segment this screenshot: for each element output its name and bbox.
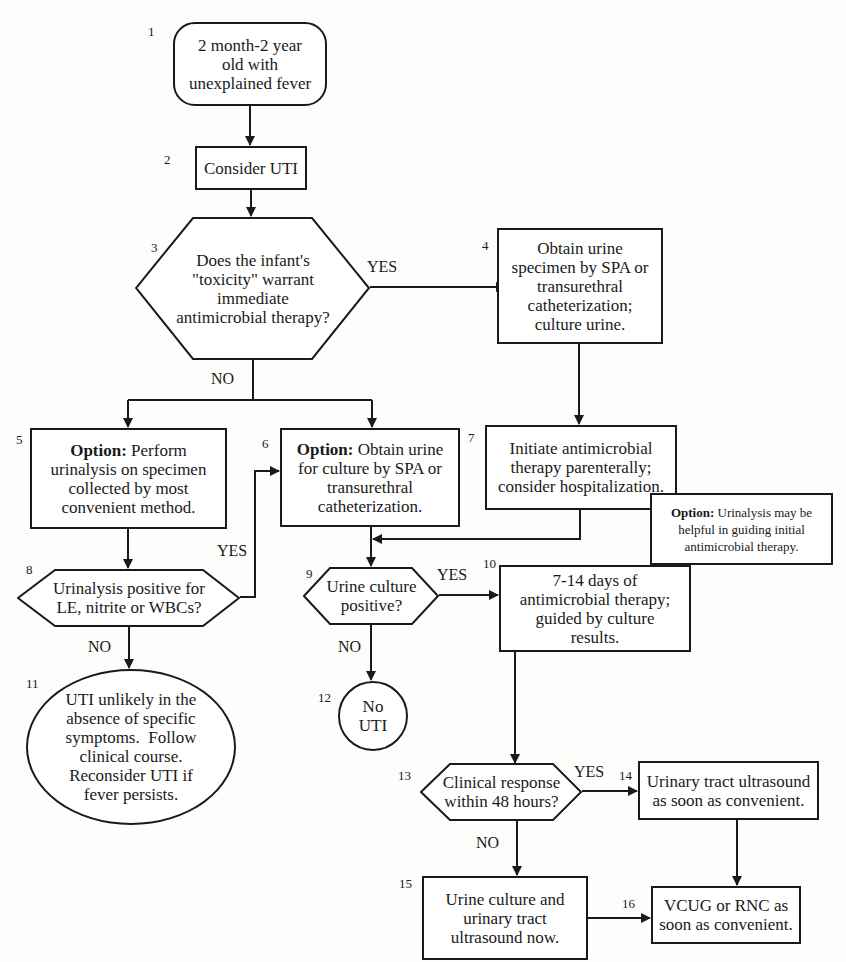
node-14-line: Urinary tract ultrasound	[647, 772, 810, 791]
node-option-urinalysis: Option: Perform urinalysis on specimen c…	[30, 428, 227, 529]
node-6-line: for culture by SPA or	[298, 459, 442, 478]
node-7-line: Initiate antimicrobial	[509, 439, 652, 458]
decision-13-text: Clinical response within 48 hours?	[420, 763, 583, 821]
note-line: antimicrobial therapy.	[685, 538, 799, 555]
flowchart-canvas: 1 2 month-2 year old with unexplained fe…	[0, 0, 846, 962]
node-12-line: No	[363, 697, 384, 716]
step-number-6: 6	[262, 436, 269, 452]
decision-8-line: LE, nitrite or WBCs?	[56, 598, 201, 617]
decision-9-line: positive?	[341, 596, 402, 615]
node-15-line: urinary tract	[463, 909, 547, 928]
decision-3-line: immediate	[217, 289, 289, 308]
node-vcug-rnc: VCUG or RNC as soon as convenient.	[651, 886, 801, 944]
node-antimicrobial-course: 7-14 days of antimicrobial therapy; guid…	[499, 565, 691, 652]
node-4-line: transurethral	[537, 277, 623, 296]
node-11-line: fever persists.	[84, 785, 178, 804]
edge-label-yes: YES	[367, 258, 397, 276]
node-11-line: symptoms. Follow	[66, 728, 197, 747]
node-10-line: antimicrobial therapy;	[520, 590, 671, 609]
decision-urinalysis-positive: Urinalysis positive for LE, nitrite or W…	[17, 569, 241, 627]
decision-urine-culture-positive: Urine culture positive?	[303, 567, 440, 625]
node-4-line: catheterization;	[528, 296, 633, 315]
node-obtain-urine-specimen: Obtain urine specimen by SPA or transure…	[497, 228, 663, 344]
step-number-16: 16	[622, 896, 635, 912]
edge-label-no: NO	[476, 834, 499, 852]
option-label: Option:	[671, 505, 714, 520]
node-10-line: 7-14 days of	[553, 571, 638, 590]
step-number-7: 7	[468, 430, 475, 446]
step-number-4: 4	[482, 238, 489, 254]
node-15-line: ultrasound now.	[451, 928, 559, 947]
decision-9-line: Urine culture	[326, 577, 416, 596]
step-number-14: 14	[619, 768, 632, 784]
node-12-line: UTI	[359, 716, 387, 735]
node-14-line: as soon as convenient.	[652, 791, 804, 810]
decision-clinical-response: Clinical response within 48 hours?	[420, 763, 583, 821]
node-15-line: Urine culture and	[446, 890, 565, 909]
node-5-line: convenient method.	[61, 498, 195, 517]
node-6-line: transurethral	[327, 478, 413, 497]
node-7-line: therapy parenterally;	[510, 458, 651, 477]
node-option-obtain-culture: Option: Obtain urine for culture by SPA …	[280, 428, 460, 527]
node-4-line: culture urine.	[535, 315, 626, 334]
node-start-patient: 2 month-2 year old with unexplained feve…	[173, 22, 327, 106]
node-5-line: urinalysis on specimen	[51, 460, 207, 479]
edge-label-yes: YES	[437, 566, 467, 584]
decision-13-line: Clinical response	[443, 773, 561, 792]
node-11-line: absence of specific	[66, 709, 195, 728]
node-7-line: consider hospitalization.	[498, 477, 664, 496]
step-number-2: 2	[164, 152, 171, 168]
node-11-line: clinical course.	[80, 747, 183, 766]
node-1-line: 2 month-2 year	[198, 36, 302, 55]
decision-13-line: within 48 hours?	[444, 792, 558, 811]
node-11-line: UTI unlikely in the	[66, 690, 197, 709]
node-initiate-therapy: Initiate antimicrobial therapy parentera…	[485, 425, 677, 510]
decision-toxicity: Does the infant's "toxicity" warrant imm…	[135, 217, 371, 360]
node-1-line: old with	[222, 55, 278, 74]
decision-8-line: Urinalysis positive for	[53, 579, 205, 598]
option-label: Option:	[70, 441, 127, 460]
decision-8-text: Urinalysis positive for LE, nitrite or W…	[17, 569, 241, 627]
node-5-text: Perform	[127, 441, 187, 460]
node-5-line: collected by most	[69, 479, 189, 498]
node-16-line: VCUG or RNC as	[664, 896, 788, 915]
node-urinary-ultrasound: Urinary tract ultrasound as soon as conv…	[638, 761, 819, 820]
edge-label-no: NO	[88, 638, 111, 656]
option-label: Option:	[297, 440, 354, 459]
step-number-13: 13	[398, 768, 411, 784]
decision-3-line: "toxicity" warrant	[192, 270, 314, 289]
node-4-line: Obtain urine	[537, 239, 622, 258]
step-number-11: 11	[26, 676, 39, 692]
decision-9-text: Urine culture positive?	[303, 567, 440, 625]
step-number-10: 10	[483, 556, 496, 572]
node-16-line: soon as convenient.	[659, 915, 793, 934]
node-10-line: results.	[571, 628, 620, 647]
node-2-text: Consider UTI	[204, 159, 298, 178]
step-number-5: 5	[16, 432, 23, 448]
decision-3-line: Does the infant's	[196, 251, 310, 270]
node-option-urinalysis-note: Option: Urinalysis may be helpful in gui…	[650, 493, 833, 565]
node-10-line: guided by culture	[536, 609, 655, 628]
node-6-line: Option: Obtain urine	[297, 440, 443, 459]
edge-label-yes: YES	[217, 542, 247, 560]
note-text: Urinalysis may be	[714, 505, 812, 520]
note-line: Option: Urinalysis may be	[671, 504, 812, 521]
node-no-uti: No UTI	[338, 681, 408, 751]
edge-label-no: NO	[338, 638, 361, 656]
node-6-text: Obtain urine	[353, 440, 443, 459]
step-number-1: 1	[148, 24, 155, 40]
node-consider-uti: Consider UTI	[195, 146, 307, 190]
edge-label-no: NO	[211, 370, 234, 388]
decision-3-line: antimicrobial therapy?	[176, 308, 329, 327]
note-line: helpful in guiding initial	[678, 521, 805, 538]
node-11-line: Reconsider UTI if	[69, 766, 193, 785]
decision-3-text: Does the infant's "toxicity" warrant imm…	[135, 217, 371, 360]
node-1-line: unexplained fever	[189, 74, 311, 93]
step-number-15: 15	[399, 876, 412, 892]
node-5-line: Option: Perform	[70, 441, 187, 460]
node-culture-and-ultrasound-now: Urine culture and urinary tract ultrasou…	[422, 876, 588, 960]
node-6-line: catheterization.	[318, 497, 422, 516]
node-uti-unlikely: UTI unlikely in the absence of specific …	[26, 669, 236, 825]
step-number-12: 12	[318, 690, 331, 706]
node-4-line: specimen by SPA or	[512, 258, 649, 277]
